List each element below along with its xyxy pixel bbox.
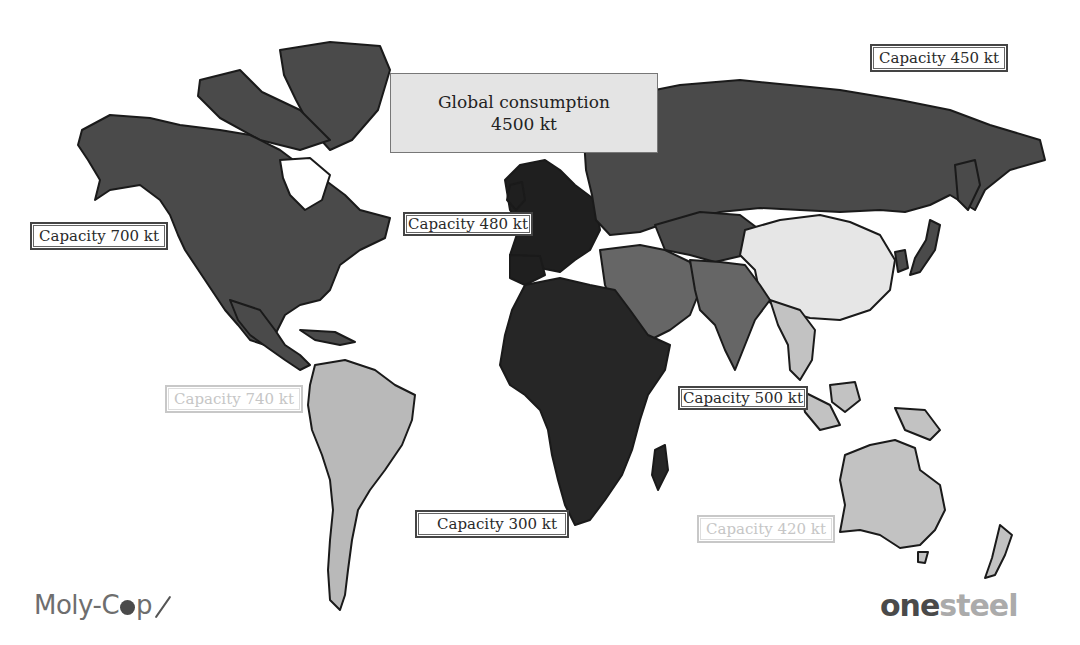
capacity-label-europe: Capacity 480 kt xyxy=(403,212,533,236)
capacity-label-africa: Capacity 300 kt xyxy=(415,510,569,538)
madagascar-shape xyxy=(652,445,668,490)
capacity-label-north-america: Capacity 700 kt xyxy=(30,222,168,250)
new-zealand-shape xyxy=(985,525,1012,578)
molycop-logo-text-pre: Moly-C xyxy=(34,590,119,620)
onesteel-logo: onesteel xyxy=(880,588,1018,623)
global-consumption-title: Global consumption xyxy=(391,91,657,113)
iberia-shape xyxy=(510,255,545,285)
global-consumption-value: 4500 kt xyxy=(391,113,657,135)
capacity-label-russia: Capacity 450 kt xyxy=(870,44,1008,72)
onesteel-logo-steel: steel xyxy=(939,588,1017,623)
capacity-label-asia: Capacity 500 kt xyxy=(678,386,808,410)
onesteel-logo-one: one xyxy=(880,588,939,623)
japan-shape xyxy=(910,220,940,275)
new-guinea-shape xyxy=(895,408,940,440)
capacity-label-south-america: Capacity 740 kt xyxy=(165,385,303,413)
tasmania-shape xyxy=(918,552,928,563)
australia-shape xyxy=(840,440,945,548)
korea-shape xyxy=(895,250,908,272)
capacity-label-australasia: Capacity 420 kt xyxy=(697,515,835,543)
south-america-shape xyxy=(308,360,415,610)
molycop-dot-icon xyxy=(120,600,135,615)
molycop-logo-text-post: p xyxy=(136,590,152,620)
caribbean-shape xyxy=(300,330,355,345)
molycop-logo: Moly-Cp xyxy=(34,590,164,620)
global-consumption-box: Global consumption 4500 kt xyxy=(390,73,658,153)
borneo-shape xyxy=(830,382,860,412)
